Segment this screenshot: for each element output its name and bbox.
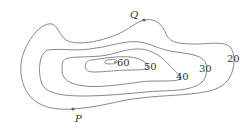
peak-marker — [114, 61, 116, 63]
contour-map: 60 50 40 30 20 Q P — [0, 0, 245, 130]
contour-30 — [40, 42, 207, 96]
contour-label-40: 40 — [176, 71, 189, 82]
point-p-label: P — [74, 113, 82, 124]
contour-label-50: 50 — [144, 61, 157, 72]
point-q-label: Q — [130, 9, 138, 20]
contour-label-60: 60 — [117, 57, 130, 68]
contour-label-20: 20 — [227, 53, 240, 64]
contour-label-30: 30 — [199, 63, 212, 74]
point-q-marker — [142, 18, 145, 21]
point-p-marker — [71, 107, 74, 110]
